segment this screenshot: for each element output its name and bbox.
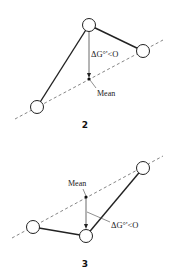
diagram-canvas: ΔG°'<O Mean 2 Mean ΔG°'<O 3: [0, 0, 173, 279]
bond-left-to-bottom: [33, 227, 86, 236]
mean-leader-line: [90, 80, 96, 88]
diagram-svg: ΔG°'<O Mean 2 Mean ΔG°'<O 3: [0, 0, 173, 279]
bond-top-to-bottom-left: [37, 25, 89, 107]
diagram-number: 3: [82, 259, 88, 269]
arrow-head-icon: [84, 224, 88, 229]
diagram-2: ΔG°'<O Mean 2: [15, 19, 163, 131]
bond-top-to-right: [89, 25, 143, 51]
diagram-3: Mean ΔG°'<O 3: [12, 156, 163, 269]
mean-label: Mean: [68, 179, 86, 188]
mean-label: Mean: [97, 89, 115, 98]
delta-g-label: ΔG°'<O: [111, 220, 138, 230]
diagram-number: 2: [82, 120, 88, 130]
node-top: [83, 19, 96, 32]
arrow-head-icon: [87, 73, 91, 78]
delta-g-label: ΔG°'<O: [91, 49, 118, 59]
node-bottom-left: [31, 101, 44, 114]
node-left: [27, 221, 40, 234]
node-bottom: [80, 230, 93, 243]
node-right: [137, 45, 150, 58]
node-top-right: [137, 162, 150, 175]
mean-leader-line: [83, 189, 86, 196]
